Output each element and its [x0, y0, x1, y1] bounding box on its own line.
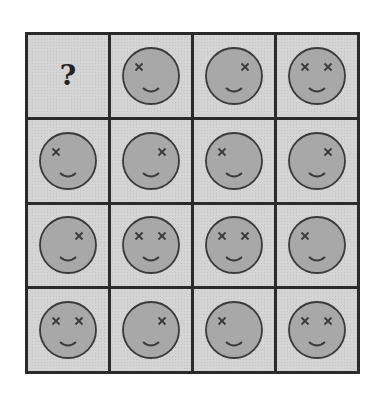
smiley-face-icon: [120, 214, 182, 276]
smiley-face-icon: [37, 130, 99, 192]
face-cell[interactable]: [28, 120, 108, 202]
smiley-face-icon: [37, 214, 99, 276]
face-cell[interactable]: [277, 35, 357, 117]
face-cell[interactable]: [277, 120, 357, 202]
smiley-face-icon: [37, 299, 99, 361]
smiley-face-icon: [203, 130, 265, 192]
face-cell[interactable]: [111, 205, 191, 287]
face-cell[interactable]: [194, 289, 274, 371]
face-cell[interactable]: [28, 205, 108, 287]
face-cell[interactable]: [277, 289, 357, 371]
face-cell[interactable]: [111, 120, 191, 202]
puzzle-grid: ?: [25, 32, 360, 374]
smiley-face-icon: [120, 45, 182, 107]
smiley-face-icon: [203, 45, 265, 107]
smiley-face-icon: [286, 130, 348, 192]
face-cell[interactable]: [277, 205, 357, 287]
smiley-face-icon: [203, 299, 265, 361]
smiley-face-icon: [286, 214, 348, 276]
missing-cell[interactable]: ?: [28, 35, 108, 117]
smiley-face-icon: [286, 45, 348, 107]
smiley-face-icon: [203, 214, 265, 276]
smiley-face-icon: [120, 299, 182, 361]
smiley-face-icon: [286, 299, 348, 361]
face-cell[interactable]: [111, 289, 191, 371]
face-cell[interactable]: [194, 35, 274, 117]
face-cell[interactable]: [111, 35, 191, 117]
smiley-face-icon: [120, 130, 182, 192]
face-cell[interactable]: [194, 205, 274, 287]
face-cell[interactable]: [194, 120, 274, 202]
question-mark-icon: ?: [60, 59, 76, 92]
face-cell[interactable]: [28, 289, 108, 371]
